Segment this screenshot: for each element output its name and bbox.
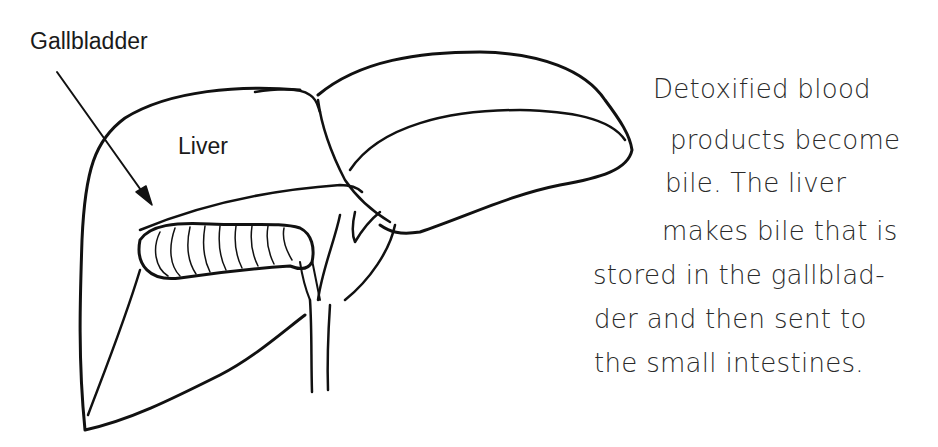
gallbladder-arrow-head — [136, 186, 152, 205]
left-lobe-under — [88, 270, 140, 415]
liver-diagram: Gallbladder Liver Detoxified blood produ… — [0, 0, 938, 447]
falciform-line — [318, 100, 390, 222]
left-lobe-top — [255, 89, 320, 112]
liver-label: Liver — [178, 135, 228, 158]
caption-line: the small intestines. — [594, 350, 864, 376]
hepatic-duct-inner — [353, 212, 380, 242]
common-bile-duct-left — [310, 300, 312, 392]
gallbladder-arrow-line — [57, 72, 148, 200]
hepatic-duct-left — [318, 215, 340, 300]
gallbladder-label: Gallbladder — [30, 30, 148, 53]
caption-line: stored in the gallblad- — [593, 262, 885, 288]
caption-line: makes bile that is — [662, 218, 898, 244]
caption-line: bile. The liver — [665, 170, 846, 196]
caption-line: products become — [670, 127, 900, 153]
common-bile-duct-right — [328, 305, 330, 390]
caption-line: Detoxified blood — [653, 76, 871, 102]
right-lobe-inner — [350, 110, 625, 170]
caption-line: der and then sent to — [594, 306, 867, 332]
right-lobe-outline — [318, 52, 632, 233]
